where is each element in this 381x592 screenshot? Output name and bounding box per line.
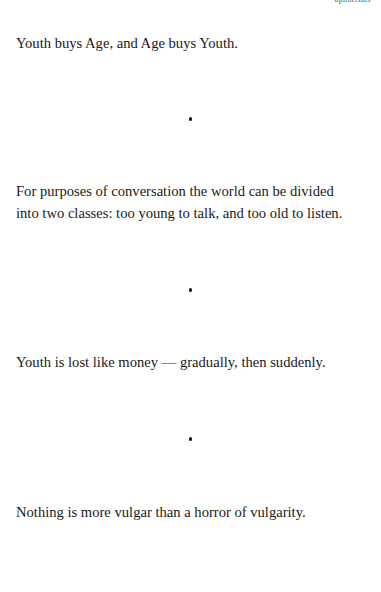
aphorism-text: For purposes of conversation the world c…	[16, 180, 342, 224]
aphorism-text: Nothing is more vulgar than a horror of …	[16, 501, 306, 523]
bullet-dot-icon	[189, 117, 193, 121]
aphorism-text: Youth is lost like money — gradually, th…	[16, 351, 326, 373]
separator	[16, 288, 365, 292]
separator	[16, 117, 365, 121]
bullet-dot-icon	[189, 288, 193, 292]
separator	[16, 437, 365, 441]
document-page: aphorisms Youth buys Age, and Age buys Y…	[0, 0, 381, 592]
bullet-dot-icon	[189, 437, 193, 441]
aphorism-text: Youth buys Age, and Age buys Youth.	[16, 32, 238, 54]
running-head: aphorisms	[335, 0, 371, 4]
